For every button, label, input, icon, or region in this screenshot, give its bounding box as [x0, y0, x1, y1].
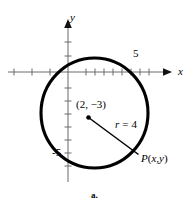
radius-label-r: r	[115, 118, 119, 130]
circle-diagram-figure: y x 5 -5 (2, −3) r=4 P(x,y) a.	[0, 0, 195, 209]
radius-label-equals: =	[122, 118, 128, 130]
point-p-paren-close: )	[164, 152, 168, 164]
point-p-letter: P	[141, 152, 148, 164]
center-point-dot	[86, 115, 91, 120]
figure-caption: a.	[91, 191, 98, 200]
y-tick-label-minus5: -5	[52, 147, 61, 158]
radius-label-value: 4	[132, 118, 138, 130]
center-coordinate-label: (2, −3)	[76, 99, 106, 110]
y-axis-label: y	[70, 12, 75, 23]
x-axis-label: x	[178, 66, 183, 77]
point-p-label: P(x,y)	[141, 153, 168, 164]
x-axis-arrowhead	[163, 68, 172, 76]
radius-label: r=4	[115, 119, 137, 130]
x-tick-label-5: 5	[133, 48, 139, 59]
